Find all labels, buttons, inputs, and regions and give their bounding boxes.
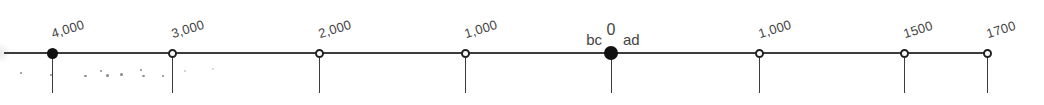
marker-label: 1,000 [463, 17, 499, 41]
marker-stem [172, 53, 174, 93]
open-dot-icon [900, 49, 909, 58]
marker-label: 2,000 [317, 17, 353, 41]
ad-label: ad [623, 31, 640, 48]
open-dot-icon [168, 49, 177, 58]
marker-label: 1500 [902, 18, 935, 41]
marker-label: 3,000 [170, 17, 206, 41]
marker-label: 1,000 [757, 17, 793, 41]
open-dot-icon [983, 49, 992, 58]
open-dot-icon [461, 49, 470, 58]
timeline: 4,000 3,000 2,000 1,000 0 bc ad 1,000 15… [0, 0, 1044, 105]
marker-label: 4,000 [50, 17, 86, 41]
marker-stem [465, 53, 467, 93]
filled-dot-icon [604, 46, 618, 60]
open-dot-icon [755, 49, 764, 58]
print-specks [12, 66, 242, 86]
marker-label: 1700 [985, 18, 1018, 41]
timeline-axis [4, 52, 988, 54]
bc-label: bc [586, 31, 602, 48]
open-dot-icon [315, 49, 324, 58]
marker-stem [319, 53, 321, 93]
marker-stem [904, 53, 906, 93]
marker-stem [52, 53, 54, 93]
filled-dot-icon [47, 48, 58, 59]
marker-stem [987, 53, 989, 93]
origin-label: 0 [607, 21, 616, 39]
marker-stem [759, 53, 761, 93]
